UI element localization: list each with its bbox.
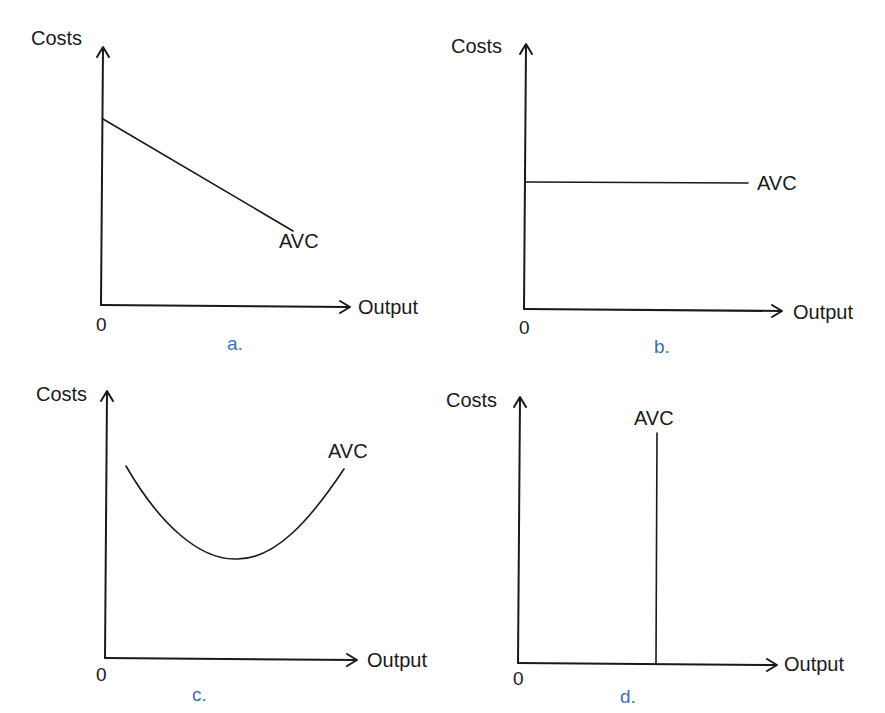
panel-b-caption: b. bbox=[654, 336, 670, 358]
panel-c-avc-curve bbox=[126, 466, 344, 559]
panel-b-y-axis-label: Costs bbox=[451, 35, 502, 58]
panel-d-origin-label: 0 bbox=[513, 668, 524, 690]
panel-c-y-axis-label: Costs bbox=[36, 383, 87, 406]
panel-c-x-axis-label: Output bbox=[367, 649, 427, 672]
panel-b-axes bbox=[520, 44, 782, 317]
panel-c-origin-label: 0 bbox=[96, 664, 107, 686]
panel-a-x-axis-label: Output bbox=[358, 296, 418, 319]
panel-a-avc-curve bbox=[103, 119, 293, 231]
panel-c-caption: c. bbox=[192, 684, 207, 706]
panel-d-avc-label: AVC bbox=[634, 407, 674, 430]
panel-b-avc-curve bbox=[526, 182, 748, 183]
panel-a-y-axis-label: Costs bbox=[31, 27, 82, 50]
diagram-canvas bbox=[0, 0, 885, 713]
panel-b-origin-label: 0 bbox=[519, 317, 530, 339]
panel-d-avc-curve bbox=[656, 433, 657, 664]
panel-c-axes bbox=[101, 391, 357, 666]
panel-a-caption: a. bbox=[227, 333, 243, 355]
panel-d-y-axis-label: Costs bbox=[446, 389, 497, 412]
panel-a-avc-label: AVC bbox=[279, 230, 319, 253]
panel-d-x-axis-label: Output bbox=[784, 653, 844, 676]
panel-a-origin-label: 0 bbox=[96, 314, 107, 336]
panel-d-axes bbox=[514, 397, 777, 671]
panel-b-x-axis-label: Output bbox=[793, 301, 853, 324]
panel-d-caption: d. bbox=[620, 686, 636, 708]
panel-c-avc-label: AVC bbox=[328, 440, 368, 463]
panel-a-axes bbox=[97, 47, 350, 313]
panel-b-avc-label: AVC bbox=[757, 172, 797, 195]
